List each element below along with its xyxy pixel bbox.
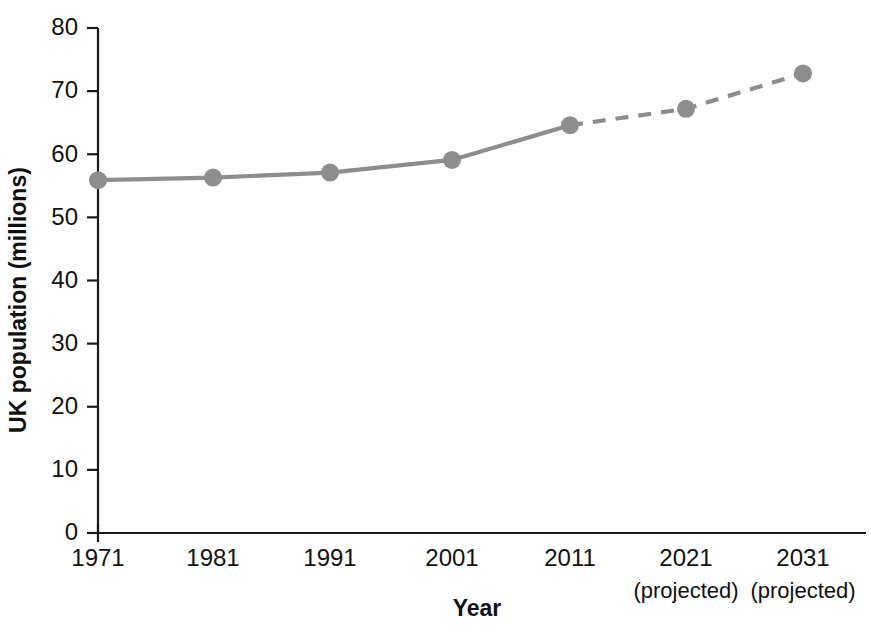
data-point-marker <box>794 64 812 82</box>
y-axis-tick-label: 40 <box>51 266 78 293</box>
x-axis-tick-label: 1981 <box>186 544 239 571</box>
x-axis-tick-label: 2021 <box>659 544 712 571</box>
y-axis-tick-label: 50 <box>51 203 78 230</box>
data-point-marker <box>443 151 461 169</box>
data-point-marker <box>204 169 222 187</box>
x-axis-tick-label: 2011 <box>544 544 596 571</box>
y-axis-tick-label: 30 <box>51 329 78 356</box>
x-axis-tick-label: 2001 <box>425 544 478 571</box>
y-axis-title: UK population (millions) <box>5 167 31 433</box>
x-axis-title: Year <box>453 595 502 621</box>
x-axis-tick-label: 1971 <box>71 544 124 571</box>
data-point-marker <box>561 116 579 134</box>
data-point-marker <box>89 171 107 189</box>
y-axis-tick-label: 0 <box>65 518 78 545</box>
x-axis-tick-sublabel: (projected) <box>633 578 738 603</box>
y-axis-tick-label: 10 <box>51 455 78 482</box>
x-axis-tick-sublabel: (projected) <box>750 578 855 603</box>
x-axis-tick-label: 2031 <box>776 544 829 571</box>
data-point-marker <box>321 164 339 182</box>
y-axis-tick-label: 20 <box>51 392 78 419</box>
chart-container: 01020304050607080 1971198119912001201120… <box>0 0 871 638</box>
y-axis-tick-label: 60 <box>51 140 78 167</box>
data-point-marker <box>677 100 695 118</box>
line-chart: 01020304050607080 1971198119912001201120… <box>0 0 871 638</box>
chart-background <box>0 0 871 638</box>
y-axis-tick-label: 80 <box>51 13 78 40</box>
x-axis-tick-label: 1991 <box>303 544 356 571</box>
y-axis-tick-label: 70 <box>51 76 78 103</box>
